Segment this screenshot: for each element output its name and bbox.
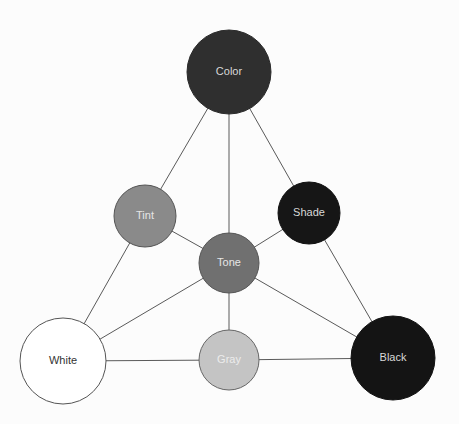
node-black: Black — [351, 316, 435, 400]
node-label-tint: Tint — [136, 209, 154, 221]
edges-layer — [63, 72, 393, 361]
node-gray: Gray — [199, 330, 259, 390]
node-shade: Shade — [278, 182, 340, 244]
diagram-canvas: Color Tint Shade Tone White Gray Black — [0, 0, 459, 424]
node-white: White — [20, 318, 106, 404]
node-label-black: Black — [380, 351, 407, 363]
node-tone: Tone — [199, 233, 259, 293]
node-label-tone: Tone — [217, 256, 241, 268]
nodes-layer: Color Tint Shade Tone White Gray Black — [20, 30, 435, 404]
node-label-shade: Shade — [293, 206, 325, 218]
color-relationship-diagram: Color Tint Shade Tone White Gray Black — [0, 0, 459, 424]
node-label-gray: Gray — [217, 353, 241, 365]
node-label-white: White — [49, 354, 77, 366]
node-tint: Tint — [114, 185, 176, 247]
node-color: Color — [187, 30, 271, 114]
node-label-color: Color — [216, 65, 243, 77]
